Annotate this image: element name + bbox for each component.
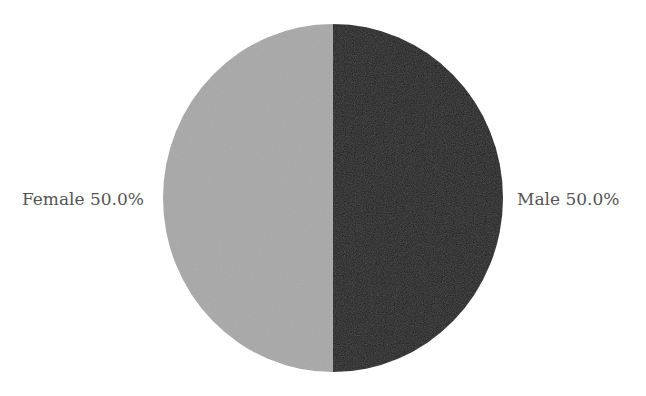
pie-label-male: Male 50.0% (517, 189, 619, 209)
pie-label-female: Female 50.0% (22, 189, 144, 209)
pie-slice-female (163, 24, 333, 372)
pie-slice-male (333, 24, 503, 372)
